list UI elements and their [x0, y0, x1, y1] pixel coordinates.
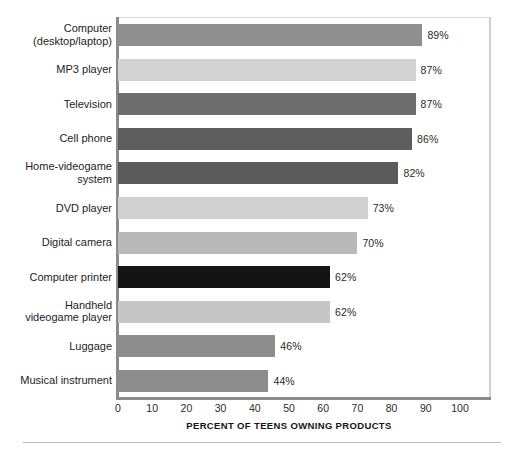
- x-tick-label: 100: [451, 402, 469, 414]
- bar-row: 62%: [118, 266, 460, 288]
- bar: [118, 59, 416, 81]
- category-label-line: Cell phone: [6, 132, 112, 145]
- bar-value-label: 73%: [368, 202, 394, 214]
- bar-value-label: 62%: [330, 306, 356, 318]
- x-axis-title: PERCENT OF TEENS OWNING PRODUCTS: [118, 420, 460, 431]
- category-label: Luggage: [6, 340, 118, 353]
- bar-row: 87%: [118, 93, 460, 115]
- x-tick-label: 10: [146, 402, 158, 414]
- bar-row: 70%: [118, 232, 460, 254]
- x-tick-label: 90: [420, 402, 432, 414]
- bar: [118, 197, 368, 219]
- x-tick-label: 40: [249, 402, 261, 414]
- bar: [118, 266, 330, 288]
- plot-right-border: [489, 17, 491, 400]
- bar-value-label: 87%: [416, 98, 442, 110]
- x-tick-label: 50: [283, 402, 295, 414]
- category-label-line: (desktop/laptop): [6, 35, 112, 48]
- x-tick-label: 80: [386, 402, 398, 414]
- bar-value-label: 44%: [268, 375, 294, 387]
- category-label-line: videogame player: [6, 311, 112, 324]
- bar: [118, 162, 398, 184]
- category-label-line: Computer: [6, 22, 112, 35]
- bar-value-label: 62%: [330, 271, 356, 283]
- bar-row: 86%: [118, 128, 460, 150]
- x-tick-label: 70: [352, 402, 364, 414]
- category-label: MP3 player: [6, 63, 118, 76]
- category-label: Cell phone: [6, 132, 118, 145]
- bar: [118, 301, 330, 323]
- bar-value-label: 86%: [412, 133, 438, 145]
- category-label-line: Musical instrument: [6, 374, 112, 387]
- category-label: Home-videogamesystem: [6, 160, 118, 185]
- bar-value-label: 82%: [398, 167, 424, 179]
- category-label-line: Handheld: [6, 299, 112, 312]
- footer-divider: [23, 442, 501, 443]
- category-label-line: MP3 player: [6, 63, 112, 76]
- bar: [118, 128, 412, 150]
- bar-value-label: 70%: [357, 237, 383, 249]
- bar-row: 73%: [118, 197, 460, 219]
- bar: [118, 370, 268, 392]
- x-axis-tick-labels: 0102030405060708090100: [118, 402, 460, 418]
- category-label: DVD player: [6, 202, 118, 215]
- x-tick-label: 0: [115, 402, 121, 414]
- bar-value-label: 46%: [275, 340, 301, 352]
- bar-row: 87%: [118, 59, 460, 81]
- category-label: Handheldvideogame player: [6, 299, 118, 324]
- x-tick-label: 60: [317, 402, 329, 414]
- category-label: Television: [6, 98, 118, 111]
- category-label-line: Home-videogame: [6, 160, 112, 173]
- category-label-line: system: [6, 173, 112, 186]
- bar: [118, 232, 357, 254]
- x-tick-label: 30: [215, 402, 227, 414]
- bar-row: 62%: [118, 301, 460, 323]
- bar-chart-figure: Computer(desktop/laptop)MP3 playerTelevi…: [0, 0, 516, 457]
- bar-row: 46%: [118, 335, 460, 357]
- bar: [118, 24, 422, 46]
- category-label: Musical instrument: [6, 374, 118, 387]
- bar: [118, 93, 416, 115]
- bar-row: 44%: [118, 370, 460, 392]
- bar-value-label: 87%: [416, 64, 442, 76]
- category-label-column: Computer(desktop/laptop)MP3 playerTelevi…: [0, 18, 118, 398]
- category-label-line: DVD player: [6, 202, 112, 215]
- category-label: Computer printer: [6, 271, 118, 284]
- plot-area: 89%87%87%86%82%73%70%62%62%46%44%: [118, 18, 460, 398]
- category-label-line: Luggage: [6, 340, 112, 353]
- x-tick-label: 20: [181, 402, 193, 414]
- bar-row: 82%: [118, 162, 460, 184]
- bar: [118, 335, 275, 357]
- category-label: Digital camera: [6, 236, 118, 249]
- category-label: Computer(desktop/laptop): [6, 22, 118, 47]
- category-label-line: Digital camera: [6, 236, 112, 249]
- bar-row: 89%: [118, 24, 460, 46]
- bar-value-label: 89%: [422, 29, 448, 41]
- category-label-line: Computer printer: [6, 271, 112, 284]
- category-label-line: Television: [6, 98, 112, 111]
